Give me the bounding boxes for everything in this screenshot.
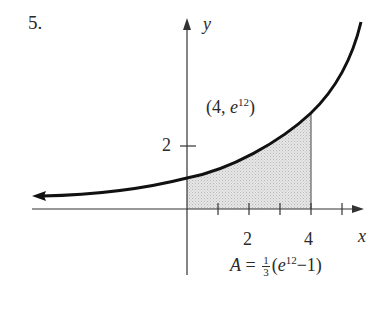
area-formula: A = 13(e12−1) xyxy=(230,255,322,278)
point-label: (4, e12) xyxy=(206,97,255,118)
y-axis-arrow-icon xyxy=(183,18,191,30)
problem-number: 5. xyxy=(28,12,42,34)
fraction-one-third: 13 xyxy=(262,255,270,278)
y-tick-label-2: 2 xyxy=(162,135,171,156)
x-axis-arrow-icon xyxy=(352,205,364,213)
x-tick-label-4: 4 xyxy=(304,229,313,250)
exponential-curve xyxy=(42,22,361,196)
x-axis-label: x xyxy=(358,226,366,247)
y-axis-label: y xyxy=(203,14,211,35)
graph-canvas xyxy=(0,0,391,325)
x-tick-label-2: 2 xyxy=(243,229,252,250)
curve-left-arrow-icon xyxy=(32,191,46,201)
